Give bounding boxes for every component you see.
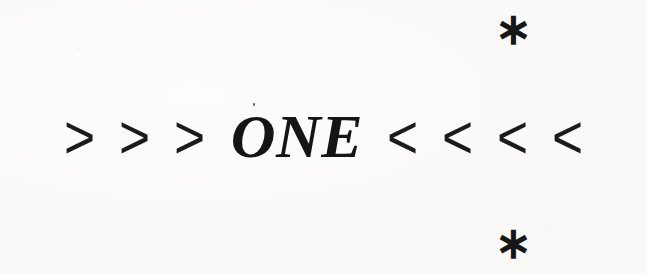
chevron-right-icon: > [164, 107, 215, 167]
asterisk-top-ornament: ∗ [493, 8, 533, 52]
chevron-left-icon: < [487, 107, 538, 167]
chapter-number-word: ONE [231, 105, 363, 167]
scanned-page: ∗ > > > ONE < < < < ∗ [0, 0, 647, 273]
chapter-ornament-line: > > > ONE < < < < [0, 99, 647, 175]
chevrons-right-group: < < < < [375, 108, 595, 166]
chevron-right-icon: > [109, 107, 160, 167]
chevron-right-icon: > [54, 107, 105, 167]
chevrons-left-group: > > > [52, 108, 217, 166]
chevron-left-icon: < [542, 107, 593, 167]
asterisk-bottom-ornament: ∗ [493, 222, 533, 266]
chevron-left-icon: < [432, 107, 483, 167]
chevron-left-icon: < [377, 107, 428, 167]
